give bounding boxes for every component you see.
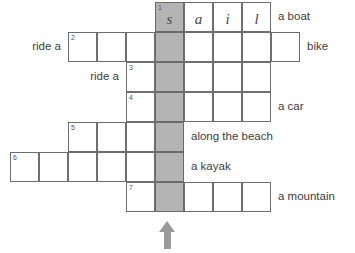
cell-number: 7 xyxy=(129,183,133,192)
crossword-cell-r4-c4[interactable] xyxy=(213,92,242,122)
cell-number: 3 xyxy=(129,63,133,72)
clue-right-6: a kayak xyxy=(191,160,231,173)
crossword-puzzle: 1saila boat2bikeride a3ride a4a car5alon… xyxy=(0,0,355,253)
crossword-cell-r3-c3[interactable] xyxy=(184,62,213,92)
crossword-cell-r1-c3[interactable]: i xyxy=(213,2,242,32)
crossword-cell-r2-c5[interactable] xyxy=(184,32,213,62)
crossword-cell-r6-c3[interactable] xyxy=(68,152,97,182)
crossword-cell-r7-c3[interactable] xyxy=(184,182,213,212)
crossword-cell-r6-c2[interactable] xyxy=(39,152,68,182)
cell-letter: i xyxy=(214,3,241,31)
crossword-cell-r3-c4[interactable] xyxy=(213,62,242,92)
crossword-cell-r2-c8[interactable] xyxy=(271,32,300,62)
clue-right-2: bike xyxy=(307,40,328,53)
clue-left-3: ride a xyxy=(0,70,119,83)
crossword-cell-r1-c1[interactable]: 1s xyxy=(155,2,184,32)
crossword-cell-r4-c2[interactable] xyxy=(155,92,184,122)
crossword-cell-r2-c3[interactable] xyxy=(126,32,155,62)
crossword-cell-r7-c5[interactable] xyxy=(242,182,271,212)
crossword-cell-r2-c7[interactable] xyxy=(242,32,271,62)
crossword-cell-r5-c1[interactable]: 5 xyxy=(68,122,97,152)
crossword-cell-r6-c1[interactable]: 6 xyxy=(10,152,39,182)
crossword-cell-r6-c4[interactable] xyxy=(97,152,126,182)
crossword-cell-r1-c4[interactable]: l xyxy=(242,2,271,32)
up-arrow-icon xyxy=(159,221,176,249)
clue-right-4: a car xyxy=(278,100,304,113)
crossword-cell-r7-c4[interactable] xyxy=(213,182,242,212)
crossword-cell-r3-c2[interactable] xyxy=(155,62,184,92)
arrow-shaft xyxy=(164,230,171,249)
cell-number: 6 xyxy=(13,153,17,162)
cell-number: 5 xyxy=(71,123,75,132)
crossword-cell-r2-c6[interactable] xyxy=(213,32,242,62)
crossword-cell-r4-c5[interactable] xyxy=(242,92,271,122)
cell-number: 2 xyxy=(71,33,75,42)
crossword-cell-r7-c1[interactable]: 7 xyxy=(126,182,155,212)
crossword-cell-r4-c1[interactable]: 4 xyxy=(126,92,155,122)
crossword-cell-r5-c3[interactable] xyxy=(126,122,155,152)
crossword-cell-r4-c3[interactable] xyxy=(184,92,213,122)
crossword-cell-r2-c2[interactable] xyxy=(97,32,126,62)
crossword-cell-r3-c5[interactable] xyxy=(242,62,271,92)
clue-right-7: a mountain xyxy=(278,190,335,203)
crossword-cell-r3-c1[interactable]: 3 xyxy=(126,62,155,92)
cell-letter: a xyxy=(185,3,212,31)
crossword-cell-r2-c1[interactable]: 2 xyxy=(68,32,97,62)
clue-right-5: along the beach xyxy=(191,130,273,143)
crossword-cell-r6-c6[interactable] xyxy=(155,152,184,182)
cell-number: 4 xyxy=(129,93,133,102)
clue-left-2: ride a xyxy=(0,40,61,53)
crossword-cell-r6-c5[interactable] xyxy=(126,152,155,182)
crossword-cell-r2-c4[interactable] xyxy=(155,32,184,62)
crossword-cell-r5-c2[interactable] xyxy=(97,122,126,152)
cell-letter: s xyxy=(156,3,183,31)
clue-right-1: a boat xyxy=(278,10,310,23)
cell-letter: l xyxy=(243,3,270,31)
crossword-cell-r7-c2[interactable] xyxy=(155,182,184,212)
crossword-cell-r1-c2[interactable]: a xyxy=(184,2,213,32)
crossword-cell-r5-c4[interactable] xyxy=(155,122,184,152)
